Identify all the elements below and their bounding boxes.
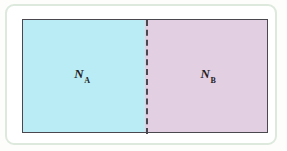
chamber-a-subscript: A [84, 76, 90, 85]
chamber-b-symbol: N [200, 66, 210, 81]
chamber-a: NA [23, 20, 145, 132]
gas-container: NA NB [22, 19, 268, 133]
chamber-a-symbol: N [74, 66, 84, 81]
chamber-b-label: NB [200, 67, 215, 84]
figure-canvas: NA NB [0, 0, 287, 151]
chamber-a-label: NA [74, 67, 90, 84]
chamber-b: NB [145, 20, 267, 132]
chamber-b-subscript: B [211, 76, 217, 85]
removable-partition [146, 20, 148, 134]
